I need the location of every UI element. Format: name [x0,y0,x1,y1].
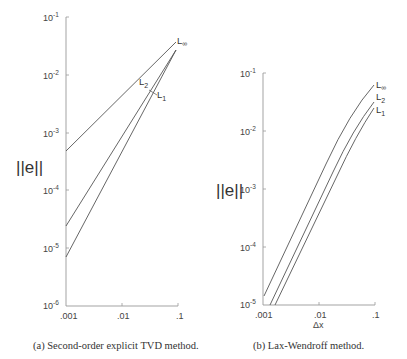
svg-text:.01: .01 [117,311,130,321]
svg-text:.001: .001 [255,310,273,320]
svg-text:10-1: 10-1 [43,11,59,23]
svg-text:.01: .01 [314,310,327,320]
series-l2 [270,102,374,305]
series-l1 [275,108,374,305]
svg-text:10-2: 10-2 [240,125,256,137]
figure-canvas: 10-1 10-2 10-3 10-4 10-5 10-6 .001 .01 .… [0,0,407,359]
svg-text:10-4: 10-4 [43,184,59,196]
y-axis-label: ||e|| [216,181,243,200]
svg-text:10-1: 10-1 [240,67,256,79]
svg-text:10-2: 10-2 [43,69,59,81]
legend-l2: L2 [139,76,148,89]
x-tick-labels: .001 .01 .1 [255,310,380,320]
panel-b: 10-1 10-2 10-3 10-4 10-5 .001 .01 .1 Δx … [216,67,386,330]
svg-text:10-5: 10-5 [43,242,59,254]
caption-a: (a) Second-order explicit TVD method. [33,340,199,351]
svg-text:10-3: 10-3 [43,127,59,139]
legend-l1: L1 [376,104,385,117]
x-tick-labels: .001 .01 .1 [60,311,184,321]
svg-text:.001: .001 [60,311,78,321]
series-linf [264,85,374,296]
y-axis-label: ||e|| [16,158,43,177]
x-axis-label: Δx [313,320,324,330]
svg-text:10-4: 10-4 [240,241,256,253]
svg-text:.1: .1 [176,311,184,321]
series-l1 [66,50,176,257]
series-lines [66,42,176,257]
svg-text:10-5: 10-5 [240,298,256,310]
legend-linf: L∞ [376,79,386,91]
caption-b: (b) Lax-Wendroff method. [253,340,364,351]
svg-text:10-6: 10-6 [43,299,59,311]
y-tick-labels: 10-1 10-2 10-3 10-4 10-5 10-6 [43,11,59,311]
legend-linf: L∞ [177,35,187,47]
series-l2 [66,50,176,226]
series-lines [264,85,374,305]
panel-a: 10-1 10-2 10-3 10-4 10-5 10-6 .001 .01 .… [16,11,187,321]
legend-l2: L2 [376,91,385,104]
svg-text:.1: .1 [372,310,380,320]
legend-l1: L1 [157,89,166,102]
